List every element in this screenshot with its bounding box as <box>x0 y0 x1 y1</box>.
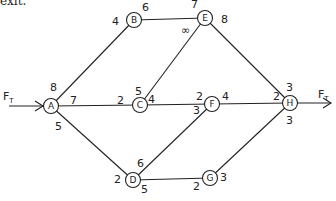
node-c: C <box>133 98 148 113</box>
cap-f-d: 3 <box>193 104 200 117</box>
network-diagram: A B C D E F G H FT FT 8 7 5 4 6 7 ∞ 8 5 … <box>0 0 336 201</box>
cap-b-e: 6 <box>142 1 149 14</box>
node-g: G <box>203 171 218 186</box>
svg-text:G: G <box>207 173 214 183</box>
node-e: E <box>198 11 213 26</box>
cap-f-h: 4 <box>222 90 229 103</box>
cap-d-a: 2 <box>114 173 121 186</box>
svg-text:D: D <box>130 175 137 185</box>
cap-e-c: ∞ <box>181 24 190 37</box>
node-b: B <box>127 13 142 28</box>
cap-d-f: 6 <box>137 157 144 170</box>
node-a: A <box>44 99 59 114</box>
svg-text:H: H <box>287 98 294 108</box>
cap-c-e: 5 <box>135 85 142 98</box>
cap-h-g: 3 <box>286 114 293 127</box>
cap-a-b: 8 <box>50 81 57 94</box>
node-d: D <box>126 173 141 188</box>
node-f: F <box>205 97 220 112</box>
cap-a-c: 7 <box>70 94 77 107</box>
node-h: H <box>283 96 298 111</box>
edge-g-h <box>210 103 290 178</box>
cap-g-d: 2 <box>193 180 200 193</box>
nodes: A B C D E F G H <box>44 11 298 188</box>
edge-b-e <box>134 18 205 20</box>
cap-h-e: 3 <box>286 81 293 94</box>
edges <box>9 18 331 180</box>
edge-a-c <box>51 105 140 106</box>
cap-g-h: 3 <box>220 171 227 184</box>
cap-d-g: 5 <box>141 183 148 196</box>
cap-h-f: 2 <box>273 90 280 103</box>
capacity-labels: 8 7 5 4 6 7 ∞ 8 5 2 4 2 3 4 2 6 5 2 3 2 … <box>50 0 293 196</box>
cap-c-a: 2 <box>117 94 124 107</box>
svg-text:A: A <box>48 101 55 111</box>
cap-e-h: 8 <box>221 13 228 26</box>
cap-b-a: 4 <box>112 15 119 28</box>
svg-text:F: F <box>209 99 214 109</box>
cap-c-f: 4 <box>148 93 155 106</box>
edge-f-h <box>212 103 290 104</box>
inflow-label: FT <box>3 90 14 105</box>
cap-f-c: 2 <box>196 90 203 103</box>
cap-a-d: 5 <box>55 120 62 133</box>
svg-text:E: E <box>202 13 208 23</box>
outflow-label: FT <box>318 88 329 103</box>
svg-text:C: C <box>137 100 143 110</box>
edge-a-d <box>51 106 133 180</box>
edge-d-f <box>133 104 212 180</box>
svg-text:B: B <box>131 15 137 25</box>
cap-e-b: 7 <box>191 0 198 11</box>
